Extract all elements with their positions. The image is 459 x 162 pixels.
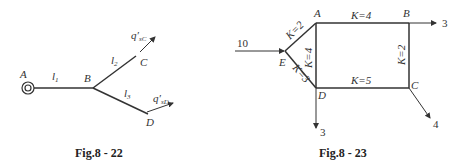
edge-bc-label: K=2 xyxy=(395,44,407,66)
edge-ea-label: K=2 xyxy=(282,18,306,42)
flow-qc-label: q′sC xyxy=(131,29,147,43)
node-b-label: B xyxy=(403,7,410,19)
figure-8-23: A B C D E K=4 K=5 K=2 K=3 K=4 K=2 10 3 3… xyxy=(235,7,448,160)
figure-caption-1: Fig.8 - 22 xyxy=(75,146,123,160)
flow-qd-label: q′sD xyxy=(153,92,169,106)
node-e-label: E xyxy=(278,56,286,68)
edge-dc-label: K=5 xyxy=(350,74,372,86)
edge-l1-label: l1 xyxy=(52,70,59,84)
node-c-label: C xyxy=(411,79,419,91)
figure-8-22: A B C D l1 l2 l3 q′sC q′sD Fig.8 - 22 xyxy=(19,29,173,160)
diagram-canvas: A B C D l1 l2 l3 q′sC q′sD Fig.8 - 22 A … xyxy=(0,0,459,162)
outflow-b-value: 3 xyxy=(442,17,448,29)
node-a-label: A xyxy=(19,68,27,80)
source-node-icon xyxy=(22,82,34,94)
node-d-label: D xyxy=(145,116,154,128)
edge-l2-label: l2 xyxy=(111,54,118,68)
edge-l3-label: l3 xyxy=(124,87,131,101)
outflow-d-value: 3 xyxy=(320,126,326,138)
figure-caption-2: Fig.8 - 23 xyxy=(319,146,367,160)
edge-ab-label: K=4 xyxy=(350,9,372,21)
edge-l3 xyxy=(93,88,148,114)
node-d-label: D xyxy=(317,89,326,101)
outflow-arrow-c xyxy=(409,88,430,118)
edge-ad-label: K=4 xyxy=(302,47,314,69)
inflow-e-value: 10 xyxy=(237,37,249,49)
outflow-c-value: 4 xyxy=(433,118,439,130)
node-c-label: C xyxy=(140,56,148,68)
node-b-label: B xyxy=(84,72,91,84)
node-a-label: A xyxy=(313,7,321,19)
